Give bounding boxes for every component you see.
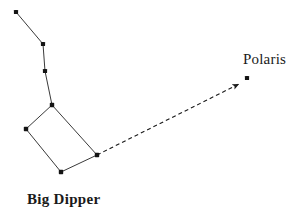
line-bowl-top-to-bowl-left [26, 105, 52, 129]
star-bowl-left [24, 127, 28, 131]
star-handle-mid [41, 42, 45, 46]
star-handle-end [14, 10, 18, 14]
star-polaris [245, 76, 249, 80]
line-bowl-left-to-bowl-bottom [26, 129, 61, 172]
polaris-label: Polaris [243, 52, 286, 67]
line-bowl-right-to-bowl-top [52, 105, 97, 155]
line-handle-mid-to-handle-near [43, 44, 45, 71]
star-bowl-top [50, 103, 54, 107]
star-bowl-right [95, 153, 99, 157]
line-bowl-bottom-to-bowl-right [61, 155, 97, 172]
big-dipper-label: Big Dipper [27, 192, 100, 207]
constellation-diagram: Polaris Big Dipper [0, 0, 302, 224]
line-handle-end-to-handle-mid [16, 12, 43, 44]
star-bowl-bottom [59, 170, 63, 174]
constellation-connector-lines [16, 12, 97, 172]
pointer-arrow-to-polaris [97, 84, 238, 155]
line-handle-near-to-bowl-top [45, 71, 52, 105]
star-handle-near [43, 69, 47, 73]
